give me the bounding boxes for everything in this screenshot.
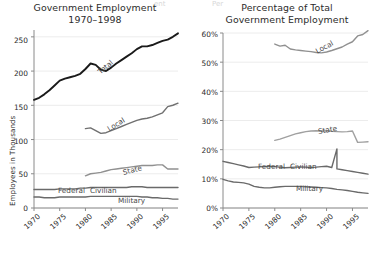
- panel-right-gridlines: [223, 33, 368, 208]
- panel-right-xtick-1980: 1980: [262, 212, 283, 232]
- panel-left-xtick-1990: 1990: [124, 212, 145, 232]
- panel-right-plot: [223, 33, 368, 208]
- series-label-federal: Federal: [58, 186, 85, 195]
- series-line-local: [85, 103, 178, 133]
- series-label-military: Military: [118, 196, 145, 205]
- panel-left-ytick-50: 50: [6, 170, 28, 179]
- panel-right-xtick-1995: 1995: [340, 212, 361, 232]
- panel-left-xtick-1980: 1980: [73, 212, 94, 232]
- series-label-civilian-pct: Civilian: [290, 162, 317, 171]
- panel-right-xtick-1985: 1985: [288, 212, 309, 232]
- panel-right-ytick-0: 0%: [190, 204, 218, 213]
- panel-left-title: Government Employment 1970–1998: [2, 2, 188, 25]
- panel-left-xtick-1985: 1985: [98, 212, 119, 232]
- panel-right-xtick-1990: 1990: [314, 212, 335, 232]
- panel-left-xtick-1995: 1995: [150, 212, 171, 232]
- series-label-civilian: Civilian: [90, 186, 117, 195]
- panel-right-ytick-20: 20%: [190, 146, 218, 155]
- panel-left-plot: [34, 30, 178, 208]
- panel-left-xtick-1975: 1975: [47, 212, 68, 232]
- panel-left-xtick-1970: 1970: [21, 212, 42, 232]
- series-label-federal-pct: Federal: [258, 162, 285, 171]
- panel-left-ytick-250: 250: [6, 36, 28, 45]
- panel-left-ytick-150: 150: [6, 103, 28, 112]
- panel-government-employment: ent Government Employment 1970–1998 Empl…: [0, 0, 190, 253]
- panel-right-xtick-1970: 1970: [210, 212, 231, 232]
- panel-right-ytick-50: 50%: [190, 59, 218, 68]
- panel-left-ytick-100: 100: [6, 137, 28, 146]
- panel-right-ytick-40: 40%: [190, 88, 218, 97]
- panel-left-axes: [31, 30, 178, 211]
- panel-right-ytick-60: 60%: [190, 30, 218, 39]
- series-label-military-pct: Military: [296, 184, 323, 193]
- series-line-military: [34, 196, 178, 199]
- panel-right-axes: [220, 33, 368, 211]
- dual-line-chart-figure: ent Government Employment 1970–1998 Empl…: [0, 0, 381, 253]
- panel-left-ylabel: Employees in Thousands: [8, 116, 17, 206]
- panel-right-title: Percentage of Total Government Employmen…: [198, 2, 376, 25]
- panel-percentage-of-total: Per Percentage of Total Government Emplo…: [190, 0, 381, 253]
- panel-left-ytick-0: 0: [6, 204, 28, 213]
- panel-left-ytick-200: 200: [6, 69, 28, 78]
- panel-right-ytick-30: 30%: [190, 117, 218, 126]
- panel-right-ytick-10: 10%: [190, 175, 218, 184]
- panel-right-xtick-1975: 1975: [236, 212, 257, 232]
